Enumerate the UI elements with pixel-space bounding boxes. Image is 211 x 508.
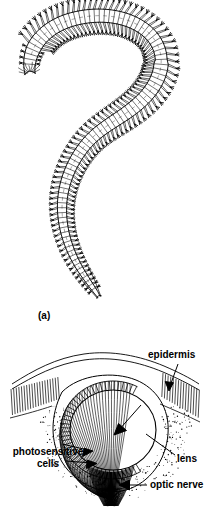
tissue-stipple-dot: [177, 447, 178, 448]
tissue-stipple-dot: [189, 421, 190, 422]
tissue-stipple-dot: [94, 495, 95, 496]
tissue-stipple-dot: [159, 465, 160, 466]
worm-chaetae: [81, 33, 82, 37]
photosensitive-cell-boundary: [87, 388, 92, 396]
tissue-stipple-dot: [56, 440, 57, 441]
worm-segment-furrow: [58, 17, 64, 30]
tissue-stipple-dot: [163, 421, 164, 422]
tissue-stipple-dot: [184, 442, 185, 443]
tissue-stipple-dot: [63, 476, 64, 477]
worm-chaetae: [108, 0, 110, 1]
epidermis-cell-boundary: [177, 380, 178, 406]
epidermis-cell-boundary: [172, 378, 173, 403]
epidermis-cell-boundary: [175, 379, 176, 404]
worm-chaetae: [106, 142, 107, 145]
tissue-stipple-dot: [171, 407, 172, 408]
tissue-stipple-dot: [75, 485, 76, 486]
tissue-stipple-dot: [179, 423, 180, 424]
tissue-stipple-dot: [161, 449, 162, 450]
tissue-stipple-dot: [147, 466, 148, 467]
worm-segment-furrow: [24, 64, 36, 65]
worm-segment-furrow: [96, 126, 103, 136]
worm-parapodium: [99, 139, 102, 145]
tissue-stipple-dot: [56, 412, 57, 413]
worm-parapodium: [136, 85, 144, 88]
tissue-stipple-dot: [184, 417, 185, 418]
tissue-stipple-dot: [129, 495, 130, 496]
worm-segment-furrow: [117, 112, 124, 123]
epidermis-cell-boundary: [193, 387, 194, 414]
worm-segment-furrow: [104, 9, 105, 22]
tissue-stipple-dot: [169, 421, 170, 422]
worm-segment-furrow: [126, 15, 130, 27]
tissue-stipple-dot: [57, 421, 58, 422]
tissue-stipple-dot: [173, 406, 174, 407]
worm-parapodium: [57, 8, 58, 18]
worm-segment-furrow: [62, 177, 72, 180]
worm-parapodium: [118, 24, 119, 33]
worm-parapodium: [59, 167, 65, 168]
worm-prostomium: [24, 71, 35, 75]
tissue-stipple-dot: [172, 443, 173, 444]
tissue-stipple-dot: [54, 425, 55, 426]
tissue-stipple-dot: [55, 429, 56, 430]
tissue-stipple-dot: [167, 428, 168, 429]
worm-chaetae: [53, 230, 56, 231]
epidermis-cell-boundary: [198, 390, 199, 418]
epidermis-cell-boundary: [32, 384, 34, 408]
worm-segment-furrow: [63, 15, 68, 28]
tissue-stipple-dot: [174, 444, 175, 445]
worm-parapodium: [54, 186, 60, 187]
worm-parapodium: [63, 157, 69, 159]
tissue-stipple-dot: [142, 471, 143, 472]
worm-parapodium: [103, 22, 106, 31]
tissue-stipple-dot: [45, 416, 46, 417]
worm-segment-furrow: [101, 123, 108, 133]
worm-segment-furrow: [25, 53, 38, 57]
tissue-stipple-dot: [147, 471, 148, 472]
tissue-stipple-dot: [85, 491, 86, 492]
tissue-stipple-dot: [56, 437, 57, 438]
photosensitive-cell-boundary: [122, 382, 124, 391]
tissue-stipple-dot: [173, 413, 174, 414]
polychaete-worm-drawing: [0, 0, 211, 330]
epidermis-cell-boundary: [55, 378, 57, 400]
tissue-stipple-dot: [177, 416, 178, 417]
worm-chaetae: [73, 227, 76, 228]
tissue-stipple-dot: [135, 478, 136, 479]
tissue-stipple-dot: [165, 459, 166, 460]
tissue-stipple-dot: [131, 490, 132, 491]
epidermis-cell-boundary: [164, 374, 165, 398]
epidermis-cell-boundary: [47, 380, 49, 403]
tissue-stipple-dot: [60, 420, 61, 421]
tissue-stipple-dot: [44, 422, 45, 423]
tissue-stipple-dot: [136, 477, 137, 478]
worm-parapodium: [136, 114, 139, 121]
label-photosensitive-cells: photosensitive cells: [2, 446, 94, 470]
tissue-stipple-dot: [175, 421, 176, 422]
worm-head-appendage: [29, 66, 30, 71]
tissue-stipple-dot: [171, 432, 172, 433]
tissue-stipple-dot: [168, 454, 169, 455]
worm-segment-furrow: [68, 163, 78, 168]
worm-parapodium: [163, 41, 172, 42]
panel-whole-worm: (a): [0, 0, 211, 330]
tissue-stipple-dot: [169, 437, 170, 438]
label-photosensitive-line-1: photosensitive: [13, 446, 84, 457]
worm-segment-furrow: [83, 275, 88, 278]
tissue-stipple-dot: [176, 438, 177, 439]
tissue-stipple-dot: [49, 425, 50, 426]
tissue-stipple-dot: [172, 474, 173, 475]
tissue-stipple-dot: [184, 413, 185, 414]
tissue-stipple-dot: [52, 436, 53, 437]
tissue-stipple-dot: [58, 470, 59, 471]
tissue-stipple-dot: [174, 421, 175, 422]
tissue-stipple-dot: [155, 462, 156, 463]
worm-chaetae: [114, 0, 116, 1]
worm-segment-furrow: [149, 80, 161, 87]
worm-segment-furrow: [68, 13, 72, 26]
tissue-stipple-dot: [177, 467, 178, 468]
worm-parapodium: [117, 24, 118, 33]
tissue-stipple-dot: [156, 477, 157, 478]
worm-segment-furrow: [72, 258, 78, 261]
